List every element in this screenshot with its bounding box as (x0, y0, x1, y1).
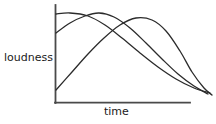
y-axis-label: loudness (4, 51, 53, 64)
loudness-envelope-chart: loudness time (0, 0, 216, 124)
x-axis-label: time (104, 105, 129, 118)
series-curve-2 (56, 13, 208, 94)
series-curve-3 (56, 18, 212, 95)
